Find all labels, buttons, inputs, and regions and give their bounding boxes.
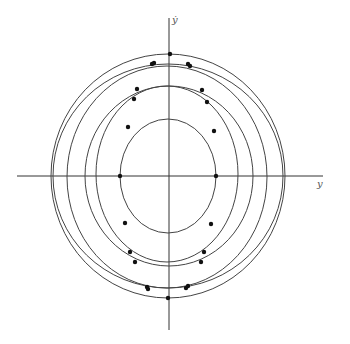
vertical-axis-label: ẏ [172, 14, 178, 25]
orbit-point [166, 296, 170, 300]
orbit-point [135, 87, 139, 91]
orbit-point [132, 97, 136, 101]
orbit-point [205, 100, 209, 104]
orbit-point [168, 52, 172, 56]
orbit-point [133, 260, 137, 264]
orbit-point [209, 222, 213, 226]
orbit-point [186, 284, 190, 288]
orbit-point [152, 61, 156, 65]
orbit-point [128, 250, 132, 254]
orbit-point [214, 174, 218, 178]
orbit-point [188, 64, 192, 68]
orbit-point [123, 221, 127, 225]
phase-diagram [0, 0, 350, 344]
orbit-c [67, 66, 267, 288]
orbit-point [212, 129, 216, 133]
orbit-point [126, 125, 130, 129]
orbit-point [202, 250, 206, 254]
orbit-point [146, 287, 150, 291]
orbit-point [200, 88, 204, 92]
horizontal-axis-label: y [317, 178, 323, 189]
orbit-point [118, 174, 122, 178]
orbit-point [199, 260, 203, 264]
